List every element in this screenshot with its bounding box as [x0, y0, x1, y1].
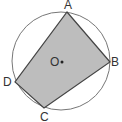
label-d: D — [3, 75, 12, 89]
center-point — [61, 61, 64, 64]
geometry-diagram: A B C D O — [0, 0, 122, 122]
label-o: O — [50, 55, 59, 69]
label-c: C — [40, 110, 49, 122]
label-a: A — [64, 0, 72, 12]
label-b: B — [111, 55, 119, 69]
